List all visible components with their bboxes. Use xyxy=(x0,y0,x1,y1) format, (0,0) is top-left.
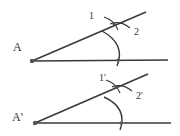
vertex-point xyxy=(33,121,37,125)
angle-construction-diagram: A 1 2 A' 1' 2' xyxy=(0,0,180,136)
main-arc xyxy=(104,97,122,130)
vertex-point xyxy=(30,59,34,63)
arc-label-2: 2 xyxy=(134,26,139,37)
arc-label-1: 1' xyxy=(99,72,106,83)
intersection-point xyxy=(114,85,117,88)
arc-label-1: 1 xyxy=(89,10,94,21)
base-ray xyxy=(32,60,168,61)
angle-ray xyxy=(35,74,148,123)
arc-base-point xyxy=(116,58,119,61)
vertex-label: A xyxy=(13,40,22,54)
arc-label-2: 2' xyxy=(136,90,143,101)
original-angle: A 1 2 xyxy=(13,10,168,66)
vertex-label: A' xyxy=(12,110,23,124)
copied-angle: A' 1' 2' xyxy=(12,72,171,130)
arc-base-point xyxy=(119,121,122,124)
intersection-point xyxy=(112,22,115,25)
